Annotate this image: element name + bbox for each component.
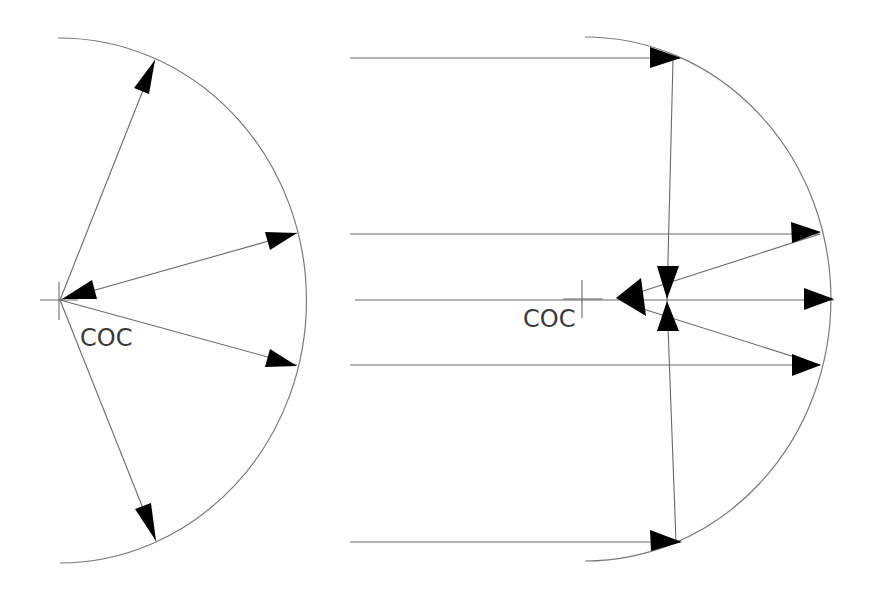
arrowhead-icon	[616, 278, 646, 316]
ray-diagram: COC COC	[0, 0, 869, 593]
arrowhead-icon	[650, 530, 682, 551]
arrowhead-icon	[791, 222, 821, 243]
right-vertical-line	[667, 60, 676, 542]
arrowhead-icon	[650, 47, 681, 68]
left-panel: COC	[40, 38, 306, 563]
arrowhead-icon	[265, 232, 297, 250]
arrowhead-icon	[792, 354, 821, 376]
left-ray-top	[60, 60, 155, 300]
right-coc-label: COC	[523, 305, 575, 333]
arrowhead-icon	[134, 60, 155, 94]
arrowhead-icon	[804, 288, 834, 310]
right-panel: COC	[350, 37, 834, 561]
left-mirror-arc	[58, 38, 306, 563]
arrowhead-icon	[265, 349, 297, 367]
arrowhead-icon	[135, 503, 156, 541]
arrowhead-icon	[657, 301, 679, 331]
arrowhead-icon	[657, 266, 679, 299]
left-coc-label: COC	[80, 324, 132, 352]
left-ray-upper	[60, 233, 297, 300]
